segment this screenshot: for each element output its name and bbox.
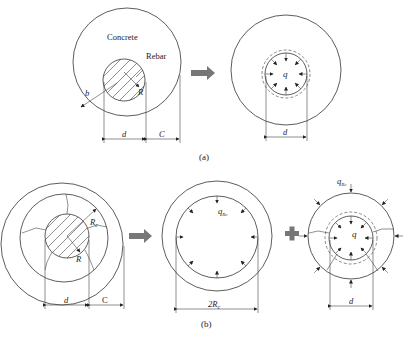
rebar-radius-label: R [75, 254, 82, 264]
radial-crack [327, 254, 337, 270]
pressure-arrow [314, 199, 320, 205]
outer-pressure-arrows [299, 184, 403, 288]
c-label: C [102, 295, 108, 305]
pressure-arrow [361, 248, 367, 254]
radial-crack [45, 252, 52, 270]
inner-pressure-q-label: q [352, 229, 357, 239]
pressure-arrow [241, 208, 246, 213]
pressure-arrow [271, 59, 277, 65]
pressure-qrc-label: qRc [218, 206, 228, 217]
diagram-canvas: Concrete Rebar R b d C q d (a) [0, 0, 408, 345]
radial-crack [66, 194, 68, 214]
pressure-arrow [295, 83, 301, 89]
2rc-label: 2Rc [208, 299, 220, 310]
pressure-arrow [295, 59, 301, 65]
pressure-arrow [188, 261, 193, 266]
crack-zone-outer-circle [308, 193, 394, 279]
d-label: d [122, 129, 127, 139]
panel-a-right-section: q d [231, 15, 341, 141]
cover-radius-label: b [85, 88, 89, 98]
panel-a-left-section: Concrete Rebar R b d C [73, 8, 181, 143]
d-label: d [64, 295, 69, 305]
pressure-arrow [335, 248, 341, 254]
pressure-q-label: q [283, 69, 288, 79]
concrete-outer-circle [73, 8, 181, 116]
rebar-radius-arrow [124, 72, 139, 87]
radial-crack [22, 228, 46, 233]
caption-a: (a) [199, 152, 209, 162]
concrete-label: Concrete [107, 32, 138, 42]
panel-b-right-section: qRc q d [299, 176, 403, 310]
outer-pressure-qrc-label: qRc [337, 176, 347, 187]
rebar-radius-arrow [67, 236, 80, 252]
pressure-arrow [241, 261, 246, 266]
pressure-arrow [314, 267, 320, 273]
panel-b-middle-section: qRc 2Rc [162, 181, 272, 313]
pressure-arrow [382, 267, 388, 273]
rebar-hatch [25, 195, 105, 275]
panel-b-left-section: Rc R d C [1, 183, 124, 309]
caption-b: (b) [201, 319, 212, 329]
rebar-label: Rebar [146, 51, 166, 61]
pressure-arrow [382, 199, 388, 205]
radial-crack [366, 254, 378, 271]
pressure-arrow [188, 208, 193, 213]
d-label: d [349, 296, 354, 306]
crack-zone-circle [20, 194, 108, 282]
right-arrow-icon [191, 66, 215, 80]
rebar-leader-line [136, 70, 143, 77]
crack-radius-label: Rc [89, 217, 98, 228]
pressure-arrow [361, 222, 367, 228]
plus-icon [285, 227, 299, 241]
c-label: C [159, 129, 165, 139]
rebar-radius-label: R [137, 87, 144, 97]
d-label: d [283, 127, 288, 137]
inner-pressure-arrows [329, 216, 373, 260]
pressure-arrow [271, 83, 277, 89]
radial-crack [85, 250, 94, 270]
pressure-arrows [176, 196, 258, 278]
pressure-arrow [335, 222, 341, 228]
right-arrow-icon [129, 229, 152, 243]
concrete-outer-circle [1, 183, 123, 305]
